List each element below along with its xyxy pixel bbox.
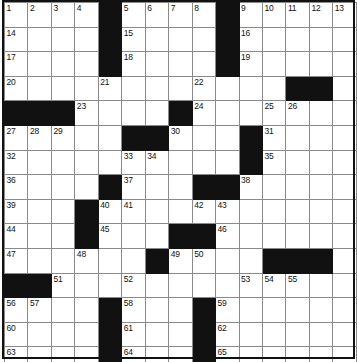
- crossword-cell[interactable]: [192, 125, 215, 150]
- crossword-cell[interactable]: [51, 52, 74, 77]
- crossword-cell[interactable]: [262, 52, 285, 77]
- crossword-cell[interactable]: 11: [286, 3, 309, 28]
- crossword-cell[interactable]: 30: [169, 125, 192, 150]
- crossword-cell[interactable]: [145, 76, 168, 101]
- crossword-cell[interactable]: 44: [5, 224, 28, 249]
- crossword-cell[interactable]: [333, 76, 357, 101]
- crossword-cell[interactable]: [51, 347, 74, 362]
- crossword-cell[interactable]: [309, 347, 332, 362]
- crossword-cell[interactable]: [75, 175, 98, 200]
- crossword-cell[interactable]: [309, 199, 332, 224]
- crossword-cell[interactable]: [286, 125, 309, 150]
- crossword-cell[interactable]: [28, 224, 51, 249]
- crossword-cell[interactable]: 28: [28, 125, 51, 150]
- crossword-cell[interactable]: [169, 175, 192, 200]
- crossword-cell[interactable]: [169, 347, 192, 362]
- crossword-cell[interactable]: [333, 150, 357, 175]
- crossword-cell[interactable]: [262, 298, 285, 323]
- crossword-cell[interactable]: [28, 248, 51, 273]
- crossword-cell[interactable]: [239, 347, 262, 362]
- crossword-cell[interactable]: 19: [239, 52, 262, 77]
- crossword-cell[interactable]: [333, 27, 357, 52]
- crossword-cell[interactable]: [145, 273, 168, 298]
- crossword-cell[interactable]: [169, 27, 192, 52]
- crossword-cell[interactable]: [145, 175, 168, 200]
- crossword-cell[interactable]: [309, 298, 332, 323]
- crossword-cell[interactable]: [145, 322, 168, 347]
- crossword-cell[interactable]: [98, 101, 121, 126]
- crossword-cell[interactable]: [122, 76, 145, 101]
- crossword-cell[interactable]: [145, 224, 168, 249]
- crossword-cell[interactable]: [122, 248, 145, 273]
- crossword-cell[interactable]: 35: [262, 150, 285, 175]
- crossword-cell[interactable]: 50: [192, 248, 215, 273]
- crossword-cell[interactable]: 60: [5, 322, 28, 347]
- crossword-cell[interactable]: 55: [286, 273, 309, 298]
- crossword-cell[interactable]: [309, 101, 332, 126]
- crossword-cell[interactable]: [98, 125, 121, 150]
- crossword-cell[interactable]: [239, 199, 262, 224]
- crossword-cell[interactable]: [239, 101, 262, 126]
- crossword-cell[interactable]: [169, 199, 192, 224]
- crossword-cell[interactable]: [192, 52, 215, 77]
- crossword-cell[interactable]: 6: [145, 3, 168, 28]
- crossword-cell[interactable]: [216, 101, 239, 126]
- crossword-cell[interactable]: 24: [192, 101, 215, 126]
- crossword-cell[interactable]: [216, 248, 239, 273]
- crossword-cell[interactable]: [51, 199, 74, 224]
- crossword-cell[interactable]: 40: [98, 199, 121, 224]
- crossword-cell[interactable]: [192, 273, 215, 298]
- crossword-cell[interactable]: [216, 273, 239, 298]
- crossword-cell[interactable]: [98, 248, 121, 273]
- crossword-cell[interactable]: [122, 101, 145, 126]
- crossword-cell[interactable]: 18: [122, 52, 145, 77]
- crossword-cell[interactable]: 37: [122, 175, 145, 200]
- crossword-cell[interactable]: [28, 322, 51, 347]
- crossword-cell[interactable]: [286, 298, 309, 323]
- crossword-cell[interactable]: [51, 76, 74, 101]
- crossword-cell[interactable]: [75, 322, 98, 347]
- crossword-cell[interactable]: [262, 27, 285, 52]
- crossword-cell[interactable]: [145, 27, 168, 52]
- crossword-cell[interactable]: [28, 52, 51, 77]
- crossword-cell[interactable]: 38: [239, 175, 262, 200]
- crossword-cell[interactable]: 63: [5, 347, 28, 362]
- crossword-cell[interactable]: 34: [145, 150, 168, 175]
- crossword-cell[interactable]: [239, 248, 262, 273]
- crossword-cell[interactable]: 25: [262, 101, 285, 126]
- crossword-cell[interactable]: [169, 150, 192, 175]
- crossword-cell[interactable]: [286, 150, 309, 175]
- crossword-cell[interactable]: [28, 150, 51, 175]
- crossword-cell[interactable]: [309, 273, 332, 298]
- crossword-cell[interactable]: [286, 347, 309, 362]
- crossword-cell[interactable]: 2: [28, 3, 51, 28]
- crossword-cell[interactable]: [333, 175, 357, 200]
- crossword-cell[interactable]: 21: [98, 76, 121, 101]
- crossword-cell[interactable]: 31: [262, 125, 285, 150]
- crossword-cell[interactable]: [262, 224, 285, 249]
- crossword-cell[interactable]: [145, 347, 168, 362]
- crossword-cell[interactable]: [333, 199, 357, 224]
- crossword-cell[interactable]: [309, 224, 332, 249]
- crossword-cell[interactable]: [145, 101, 168, 126]
- crossword-cell[interactable]: [216, 125, 239, 150]
- crossword-cell[interactable]: [286, 175, 309, 200]
- crossword-cell[interactable]: [28, 347, 51, 362]
- crossword-cell[interactable]: [75, 76, 98, 101]
- crossword-cell[interactable]: [333, 273, 357, 298]
- crossword-cell[interactable]: [145, 199, 168, 224]
- crossword-cell[interactable]: [28, 199, 51, 224]
- crossword-cell[interactable]: 65: [216, 347, 239, 362]
- crossword-cell[interactable]: 26: [286, 101, 309, 126]
- crossword-cell[interactable]: [309, 52, 332, 77]
- crossword-cell[interactable]: [169, 76, 192, 101]
- crossword-cell[interactable]: [28, 175, 51, 200]
- crossword-cell[interactable]: [309, 27, 332, 52]
- crossword-cell[interactable]: 32: [5, 150, 28, 175]
- crossword-cell[interactable]: [333, 224, 357, 249]
- crossword-cell[interactable]: [333, 322, 357, 347]
- crossword-cell[interactable]: 52: [122, 273, 145, 298]
- crossword-cell[interactable]: [51, 248, 74, 273]
- crossword-cell[interactable]: 4: [75, 3, 98, 28]
- crossword-cell[interactable]: [145, 298, 168, 323]
